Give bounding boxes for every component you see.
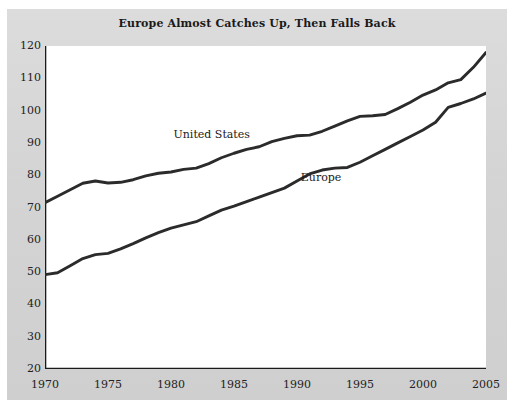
x-axis-tick-label: 1985 <box>212 379 256 390</box>
y-axis-tick-label: 20 <box>7 363 41 374</box>
chart-title: Europe Almost Catches Up, Then Falls Bac… <box>7 17 507 30</box>
line-chart-svg <box>45 46 486 369</box>
y-axis-tick-label: 90 <box>7 137 41 148</box>
plot-area <box>45 46 486 369</box>
series-label-europe: Europe <box>301 172 342 183</box>
x-axis-tick-label: 1975 <box>86 379 130 390</box>
x-axis-tick-label: 1980 <box>149 379 193 390</box>
y-axis-tick-label: 100 <box>7 105 41 116</box>
y-axis-tick-label: 120 <box>7 40 41 51</box>
y-axis-tick-label: 50 <box>7 266 41 277</box>
series-line-0 <box>45 52 486 202</box>
x-axis-tick-label: 2000 <box>401 379 445 390</box>
x-axis-tick-label: 1990 <box>275 379 319 390</box>
x-axis-tick-label: 2005 <box>464 379 508 390</box>
y-axis-tick-label: 40 <box>7 298 41 309</box>
y-axis-tick-label: 30 <box>7 331 41 342</box>
chart-screenshot: Europe Almost Catches Up, Then Falls Bac… <box>0 0 514 409</box>
y-axis-tick-label: 80 <box>7 169 41 180</box>
x-axis-tick-label: 1995 <box>338 379 382 390</box>
y-axis-tick-label: 110 <box>7 72 41 83</box>
chart-panel: Europe Almost Catches Up, Then Falls Bac… <box>7 9 507 400</box>
x-axis-tick-label: 1970 <box>23 379 67 390</box>
series-label-united-states: United States <box>174 129 250 140</box>
y-axis-tick-label: 60 <box>7 234 41 245</box>
y-axis-tick-label: 70 <box>7 202 41 213</box>
